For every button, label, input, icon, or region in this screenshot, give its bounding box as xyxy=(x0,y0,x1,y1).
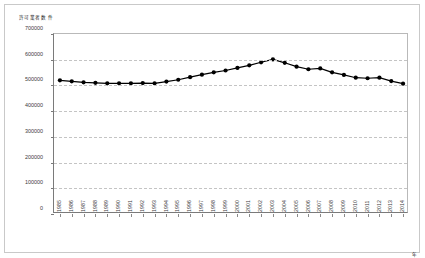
gridline-horizontal xyxy=(54,85,407,86)
x-axis-tick-label: 1996 xyxy=(186,200,192,212)
x-axis-tick-label: 2007 xyxy=(316,200,322,212)
data-point-marker xyxy=(318,66,322,70)
x-axis-tick-label: 1998 xyxy=(210,200,216,212)
y-axis-tick-label: 700000 xyxy=(3,25,43,31)
data-point-marker xyxy=(200,73,204,77)
x-axis-tick xyxy=(273,214,274,217)
data-point-marker xyxy=(81,80,85,84)
data-point-marker xyxy=(176,78,180,82)
x-axis-tick xyxy=(202,214,203,217)
x-axis-tick-label: 2006 xyxy=(305,200,311,212)
y-axis-tick-label: 200000 xyxy=(3,154,43,160)
x-axis-tick-label: 1997 xyxy=(198,200,204,212)
data-point-marker xyxy=(283,61,287,65)
data-point-marker xyxy=(365,76,369,80)
data-point-marker xyxy=(93,81,97,85)
x-axis-tick xyxy=(320,214,321,217)
plot-area xyxy=(53,33,408,213)
y-axis-tick-label: 0 xyxy=(3,205,43,211)
x-axis-tick-label: 2004 xyxy=(281,200,287,212)
data-point-marker xyxy=(306,67,310,71)
gridline-horizontal xyxy=(54,188,407,189)
chart-title: 許可業者数 件 xyxy=(19,14,53,20)
x-axis-tick xyxy=(237,214,238,217)
x-axis-tick xyxy=(178,214,179,217)
chart-frame: 許可業者数 件 年 xyxy=(4,4,420,253)
data-point-marker xyxy=(164,79,168,83)
x-axis-tick xyxy=(297,214,298,217)
x-axis-tick-label: 1989 xyxy=(103,200,109,212)
x-axis-tick-label: 2010 xyxy=(352,200,358,212)
x-axis-tick xyxy=(155,214,156,217)
data-point-marker xyxy=(330,70,334,74)
y-axis-tick xyxy=(51,214,54,215)
y-axis-tick xyxy=(51,137,54,138)
data-point-marker xyxy=(235,66,239,70)
x-axis-tick xyxy=(84,214,85,217)
x-axis-tick-label: 2009 xyxy=(340,200,346,212)
data-point-marker xyxy=(294,65,298,69)
x-axis-tick xyxy=(332,214,333,217)
data-point-marker xyxy=(212,70,216,74)
x-axis-tick-label: 1991 xyxy=(127,200,133,212)
x-axis-tick xyxy=(308,214,309,217)
data-point-marker xyxy=(377,76,381,80)
gridline-horizontal xyxy=(54,163,407,164)
x-axis-tick-label: 2005 xyxy=(293,200,299,212)
x-axis-tick xyxy=(60,214,61,217)
x-axis-tick xyxy=(261,214,262,217)
x-axis-tick xyxy=(344,214,345,217)
data-point-marker xyxy=(389,79,393,83)
y-axis-tick-label: 100000 xyxy=(3,179,43,185)
x-axis-tick xyxy=(285,214,286,217)
data-point-marker xyxy=(58,78,62,82)
x-axis-tick-label: 2012 xyxy=(376,200,382,212)
x-axis-tick-label: 2001 xyxy=(245,200,251,212)
x-axis-tick xyxy=(131,214,132,217)
x-axis-tick xyxy=(190,214,191,217)
x-axis-tick-label: 2003 xyxy=(269,200,275,212)
x-axis-tick xyxy=(368,214,369,217)
x-axis-tick-label: 1988 xyxy=(92,200,98,212)
data-point-marker xyxy=(342,73,346,77)
x-axis-tick-label: 1995 xyxy=(174,200,180,212)
chart-page: 許可業者数 件 年 010000020000030000040000050000… xyxy=(0,0,425,258)
x-axis-tick-label: 2013 xyxy=(387,200,393,212)
gridline-horizontal xyxy=(54,111,407,112)
x-axis-tick xyxy=(143,214,144,217)
x-axis-tick-label: 1990 xyxy=(115,200,121,212)
y-axis-tick xyxy=(51,163,54,164)
x-axis-tick-label: 2008 xyxy=(328,200,334,212)
x-axis-tick xyxy=(249,214,250,217)
y-axis-tick xyxy=(51,60,54,61)
y-axis-tick-label: 300000 xyxy=(3,128,43,134)
x-axis-tick xyxy=(119,214,120,217)
x-axis-tick-label: 2011 xyxy=(364,200,370,212)
x-axis-tick-label: 1999 xyxy=(222,200,228,212)
y-axis-tick-label: 400000 xyxy=(3,102,43,108)
y-axis-tick xyxy=(51,188,54,189)
gridline-horizontal xyxy=(54,60,407,61)
x-axis-tick xyxy=(72,214,73,217)
x-axis-tick-label: 2000 xyxy=(234,200,240,212)
data-series-line xyxy=(54,34,409,214)
x-axis-unit-label: 年 xyxy=(412,251,417,257)
x-axis-tick xyxy=(226,214,227,217)
y-axis-tick-label: 500000 xyxy=(3,76,43,82)
data-point-marker xyxy=(259,60,263,64)
x-axis-tick-label: 1993 xyxy=(151,200,157,212)
y-axis-tick xyxy=(51,34,54,35)
x-axis-tick xyxy=(95,214,96,217)
x-axis-tick-label: 1985 xyxy=(56,200,62,212)
data-point-marker xyxy=(70,79,74,83)
x-axis-tick xyxy=(166,214,167,217)
x-axis-tick-label: 1987 xyxy=(80,200,86,212)
x-axis-tick-label: 2014 xyxy=(399,200,405,212)
x-axis-tick xyxy=(356,214,357,217)
x-axis-tick-label: 2002 xyxy=(257,200,263,212)
data-point-marker xyxy=(354,76,358,80)
x-axis-tick-label: 1986 xyxy=(68,200,74,212)
x-axis-tick-label: 1992 xyxy=(139,200,145,212)
gridline-horizontal xyxy=(54,137,407,138)
series-polyline xyxy=(60,59,403,83)
